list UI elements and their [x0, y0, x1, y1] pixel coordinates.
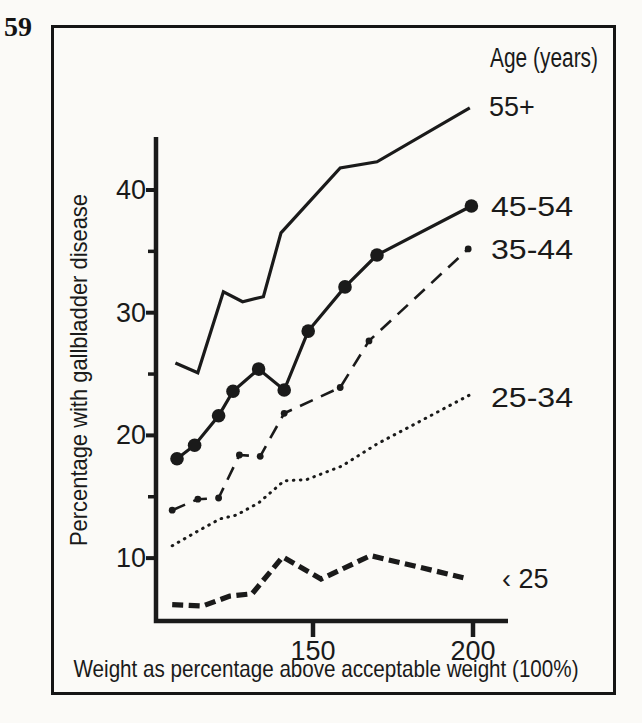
series-45-54-marker — [465, 199, 479, 213]
series-35-44-marker — [281, 410, 288, 417]
y-tick-label-20: 20 — [116, 420, 146, 450]
legend-label-35-44: 35-44 — [491, 235, 573, 265]
y-tick-label-30: 30 — [116, 298, 146, 328]
series-45-54-marker — [301, 324, 315, 338]
series-35-44-marker — [236, 452, 243, 459]
legend-title: Age (years) — [490, 43, 598, 73]
series-45-54-marker — [370, 248, 384, 262]
gallbladder-chart: 40302010 150200 Percentage with gallblad… — [0, 0, 642, 723]
series-45-54-marker — [252, 362, 266, 376]
series-45-54-marker — [212, 409, 226, 423]
y-tick-label-10: 10 — [116, 543, 146, 573]
series-35-44-marker — [366, 338, 373, 345]
series-35-44-marker — [194, 496, 201, 503]
page: 59 40302010 150200 Percentage with gallb… — [0, 0, 642, 723]
series-35-44-line — [172, 249, 468, 510]
series-45-54-marker — [188, 438, 202, 452]
legend-label-25-34: 25-34 — [491, 383, 573, 413]
legend-label-55plus: 55+ — [489, 92, 535, 122]
legend-label-under-25: ‹ 25 — [502, 564, 549, 594]
series-45-54-marker — [170, 452, 184, 466]
series-35-44-marker — [465, 246, 472, 253]
series-layer — [169, 108, 478, 606]
y-axis-title: Percentage with gallbladder disease — [65, 194, 92, 546]
series-under-25-line — [172, 556, 463, 606]
x-axis-title: Weight as percentage above acceptable we… — [74, 655, 579, 682]
legend-label-45-54: 45-54 — [491, 192, 573, 222]
series-55plus-line — [175, 108, 469, 373]
y-ticks-layer: 40302010 — [116, 175, 157, 573]
series-35-44-marker — [215, 495, 222, 502]
series-45-54-marker — [226, 384, 240, 398]
series-35-44-marker — [337, 384, 344, 391]
axes — [156, 137, 508, 621]
series-35-44-marker — [257, 453, 264, 460]
y-tick-label-40: 40 — [116, 175, 146, 205]
series-45-54-marker — [277, 383, 291, 397]
series-35-44-marker — [169, 507, 176, 514]
series-45-54-marker — [338, 280, 352, 294]
